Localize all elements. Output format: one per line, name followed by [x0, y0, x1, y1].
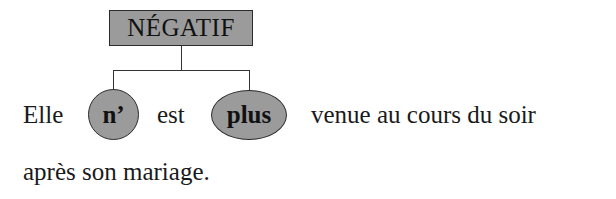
node-plus: plus — [211, 90, 287, 140]
connector-horizontal — [113, 70, 250, 71]
connector-left-drop — [113, 70, 114, 90]
word-elle: Elle — [23, 102, 63, 127]
word-est: est — [157, 102, 185, 127]
negatif-box: NÉGATIF — [109, 10, 253, 46]
connector-vertical — [181, 46, 182, 70]
node-n: n’ — [88, 89, 139, 140]
word-venue: venue au cours du soir — [311, 102, 536, 127]
node-plus-label: plus — [227, 101, 271, 129]
connector-right-drop — [249, 70, 250, 90]
negatif-label: NÉGATIF — [127, 14, 235, 42]
sentence-line-2: après son mariage. — [23, 159, 210, 184]
node-n-label: n’ — [102, 101, 124, 129]
